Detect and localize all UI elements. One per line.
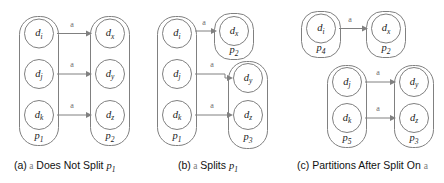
caption-b-index: (b) — [178, 159, 191, 171]
edge-label-a-1: a — [70, 20, 74, 29]
caption-panel-c: (c) Partitions After Split On a — [297, 160, 428, 172]
partition-diagram: di dj dk p1 dx dy dz p2 a a a — [0, 0, 444, 183]
panel-a: di dj dk p1 dx dy dz p2 a a a — [20, 17, 130, 146]
edge-label-b-2: a — [210, 60, 214, 69]
caption-c-text: Partitions After Split On — [309, 159, 423, 171]
caption-a-index: (a) — [14, 159, 27, 171]
caption-a-partition: p1 — [106, 160, 115, 171]
edge-label-c-3: a — [376, 104, 380, 113]
edge-label-a-3: a — [70, 101, 74, 110]
edge-label-c-2: a — [376, 68, 380, 77]
caption-panel-a: (a) a Does Not Split p1 — [14, 160, 115, 174]
caption-panel-b: (b) a Splits p1 — [178, 160, 238, 174]
caption-a-text: Does Not Split — [33, 159, 106, 171]
edge-label-b-1: a — [202, 18, 206, 27]
caption-c-symbol: a — [424, 161, 428, 171]
edge-label-b-3: a — [210, 101, 214, 110]
panel-c: di p4 dx p2 a dj dk p5 dy dz p3 — [302, 12, 434, 148]
edge-label-a-2: a — [70, 60, 74, 69]
caption-b-partition: p1 — [229, 160, 238, 171]
panel-b: di dj dk p1 dx p2 dy dz p3 a — [158, 14, 268, 149]
edge-label-c-1: a — [348, 15, 352, 24]
caption-b-text: Splits — [197, 159, 229, 171]
figure-container: di dj dk p1 dx dy dz p2 a a a — [0, 0, 444, 183]
caption-c-index: (c) — [297, 159, 309, 171]
